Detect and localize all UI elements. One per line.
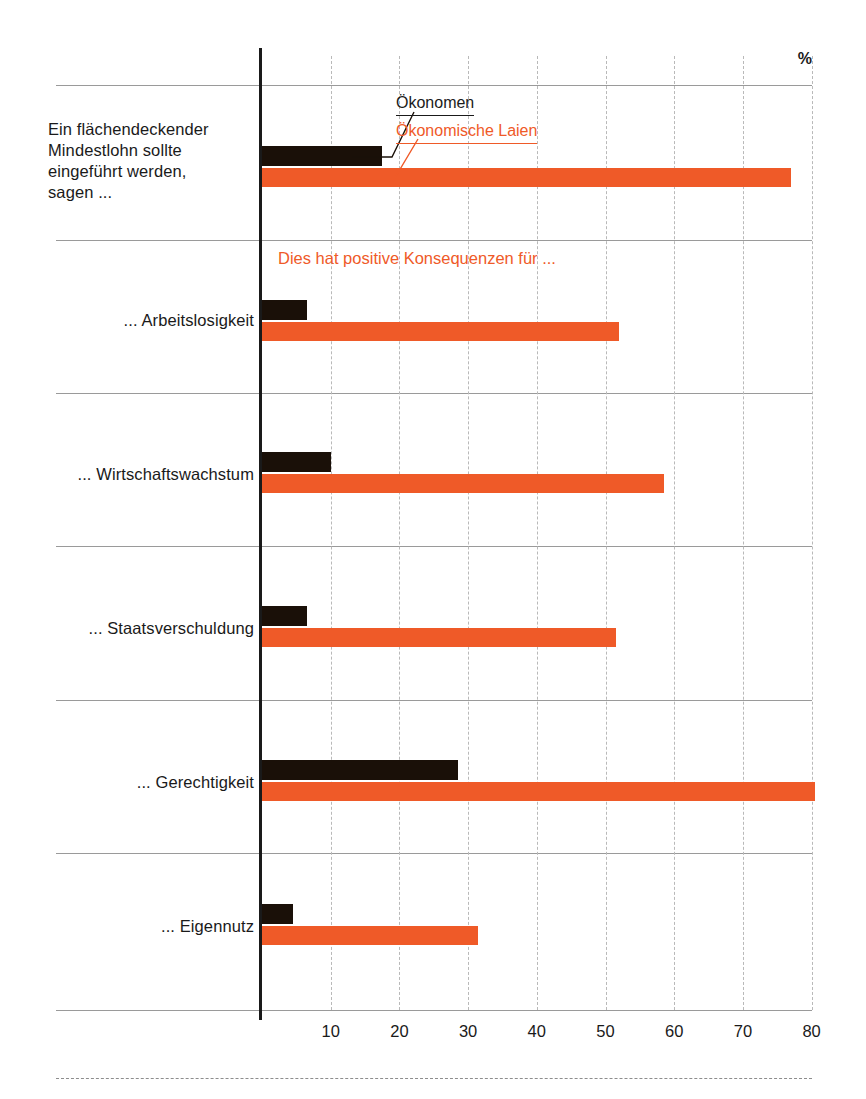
bar-laypeople-staatsverschuldung (262, 628, 616, 647)
bar-laypeople-eigennutz (262, 926, 478, 945)
category-label-arbeitslosigkeit: ... Arbeitslosigkeit (48, 310, 254, 331)
tick-label-50: 50 (586, 1022, 626, 1041)
bar-laypeople-wirtschaftswachstum (262, 474, 664, 493)
category-label-staatsverschuldung: ... Staatsverschuldung (48, 618, 254, 639)
bar-economists-eigennutz (262, 904, 293, 924)
category-label-wirtschaftswachstum: ... Wirtschaftswachstum (48, 464, 254, 485)
gridline-60 (674, 56, 675, 1010)
question-line-3: eingeführt werden, (48, 161, 248, 182)
chart-container: % Ökonomen Öko (0, 0, 866, 1099)
bar-economists-arbeitslosigkeit (262, 300, 307, 320)
footer-divider (56, 1078, 812, 1079)
tick-label-60: 60 (654, 1022, 694, 1041)
bar-laypeople-arbeitslosigkeit (262, 322, 619, 341)
legend-item-laypeople[interactable]: Ökonomische Laien (396, 119, 537, 144)
gridline-40 (537, 56, 538, 1010)
gridline-80 (812, 56, 813, 1010)
tick-label-30: 30 (448, 1022, 488, 1041)
question-line-4: sagen ... (48, 182, 248, 203)
category-label-mindestlohn: Ein flächendeckender Mindestlohn sollte … (48, 119, 248, 203)
gridline-10 (331, 56, 332, 1010)
bar-economists-staatsverschuldung (262, 606, 307, 626)
tick-label-10: 10 (311, 1022, 351, 1041)
subheading-konsequenzen: Dies hat positive Konsequenzen für ... (278, 249, 556, 268)
category-label-gerechtigkeit: ... Gerechtigkeit (48, 772, 254, 793)
tick-label-40: 40 (517, 1022, 557, 1041)
bar-economists-gerechtigkeit (262, 760, 458, 780)
tick-label-70: 70 (723, 1022, 763, 1041)
bar-laypeople-mindestlohn (262, 168, 791, 187)
question-line-1: Ein flächendeckender (48, 119, 248, 140)
gridline-70 (743, 56, 744, 1010)
bar-economists-wirtschaftswachstum (262, 452, 331, 472)
bar-economists-mindestlohn (262, 146, 382, 166)
question-line-2: Mindestlohn sollte (48, 140, 248, 161)
tick-label-20: 20 (379, 1022, 419, 1041)
legend: Ökonomen Ökonomische Laien (396, 91, 537, 144)
bar-laypeople-gerechtigkeit (262, 782, 815, 801)
gridline-30 (468, 56, 469, 1010)
gridline-50 (606, 56, 607, 1010)
legend-item-economists[interactable]: Ökonomen (396, 91, 474, 116)
plot-area (262, 56, 812, 1010)
tick-label-80: 80 (792, 1022, 832, 1041)
category-label-eigennutz: ... Eigennutz (48, 916, 254, 937)
gridline-20 (399, 56, 400, 1010)
axis-baseline (56, 1010, 812, 1011)
